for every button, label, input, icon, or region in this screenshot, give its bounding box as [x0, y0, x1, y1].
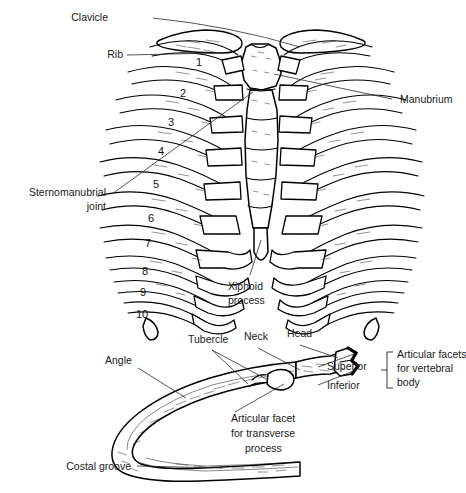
costal-cartilage-right-6 [282, 216, 322, 234]
label-xiphoid-line1: Xiphoid [228, 280, 263, 292]
label-clavicle: Clavicle [71, 11, 108, 23]
head-leader [300, 345, 338, 358]
rib-right-4-upper [294, 125, 416, 153]
rib-left-7-texture [152, 232, 201, 260]
sternomanubrial-leader [112, 92, 253, 194]
rib-left-6-texture [152, 199, 203, 226]
label-costal-groove: Costal groove [66, 460, 131, 472]
rib-number-2: 2 [180, 87, 186, 99]
rib-left-5-texture [154, 165, 205, 191]
label-transverse-line3: process [245, 442, 282, 454]
rib-left-4-upper [106, 125, 228, 153]
label-neck: Neck [244, 330, 269, 342]
label-facets-line2: for vertebral [397, 362, 453, 374]
rib-left-11-tip [143, 318, 158, 340]
costal-cartilage-right-2 [279, 85, 308, 100]
rib-number-9: 9 [140, 286, 146, 298]
manubrium-bone [241, 44, 281, 90]
label-manubrium: Manubrium [400, 93, 453, 105]
rib-number-3: 3 [168, 116, 174, 128]
clipped-caption-row [0, 484, 466, 493]
costal-cartilage-left-5 [204, 182, 241, 200]
costal-cartilage-left-7 [196, 250, 252, 269]
label-xiphoid-line2: process [228, 294, 265, 306]
label-transverse-line2: for transverse [231, 427, 295, 439]
rib-number-1: 1 [196, 56, 202, 68]
costal-cartilage-left-10 [192, 314, 236, 334]
ribs-right [270, 41, 424, 340]
label-rib: Rib [107, 48, 123, 60]
rib-number-6: 6 [148, 212, 154, 224]
costal-cartilage-right-3 [279, 116, 312, 133]
label-superior: Superior [327, 360, 367, 372]
costal-cartilage-left-4 [206, 148, 242, 166]
rib-left-4-texture [158, 132, 207, 157]
label-head: Head [287, 327, 312, 339]
costal-cartilage-right-8 [272, 276, 326, 296]
label-sternomanubrial-line2: joint [86, 200, 106, 212]
label-facets-line3: body [397, 376, 421, 388]
rib-tubercle [267, 370, 294, 391]
rib-left-2-upper [128, 66, 234, 88]
costal-cartilage-right-7 [270, 250, 326, 269]
isolated-rib-drawing: Tubercle Neck Head Angle Superior Inferi… [66, 327, 466, 481]
rib-cage-drawing: 1 2 3 4 5 6 7 8 9 10 Clavicle Rib Manubr… [29, 11, 453, 340]
angle-leader [138, 368, 186, 398]
costal-cartilage-right-9 [278, 296, 328, 316]
rib-right-11-tip [364, 318, 379, 340]
rib-left-8-texture [150, 261, 182, 273]
label-transverse-line1: Articular facet [231, 412, 295, 424]
sternum-body [245, 90, 278, 228]
costal-cartilage-right-1 [278, 56, 300, 74]
rib-number-5: 5 [153, 178, 159, 190]
clipped-caption-text [0, 484, 466, 492]
rib-number-7: 7 [145, 237, 151, 249]
label-tubercle: Tubercle [188, 333, 229, 345]
label-facets-line1: Articular facets [397, 348, 466, 360]
label-inferior: Inferior [327, 379, 360, 391]
rib-number-4: 4 [158, 145, 164, 157]
rib-number-10: 10 [136, 308, 148, 320]
facets-bracket [381, 352, 393, 388]
label-sternomanubrial-line1: Sternomanubrial [29, 186, 106, 198]
costal-cartilage-left-2 [214, 85, 243, 100]
sternum [241, 44, 281, 260]
transverse-facet-leader [235, 384, 284, 412]
costal-cartilage-right-4 [280, 148, 316, 166]
label-angle: Angle [105, 354, 132, 366]
costal-cartilage-left-6 [200, 216, 240, 234]
costal-cartilage-right-5 [281, 182, 318, 200]
rib-number-8: 8 [142, 265, 148, 277]
costal-cartilage-left-1 [222, 56, 244, 74]
anatomy-figure: 1 2 3 4 5 6 7 8 9 10 Clavicle Rib Manubr… [0, 0, 466, 493]
rib-right-2-upper [288, 66, 394, 88]
costal-cartilage-left-3 [210, 116, 243, 133]
